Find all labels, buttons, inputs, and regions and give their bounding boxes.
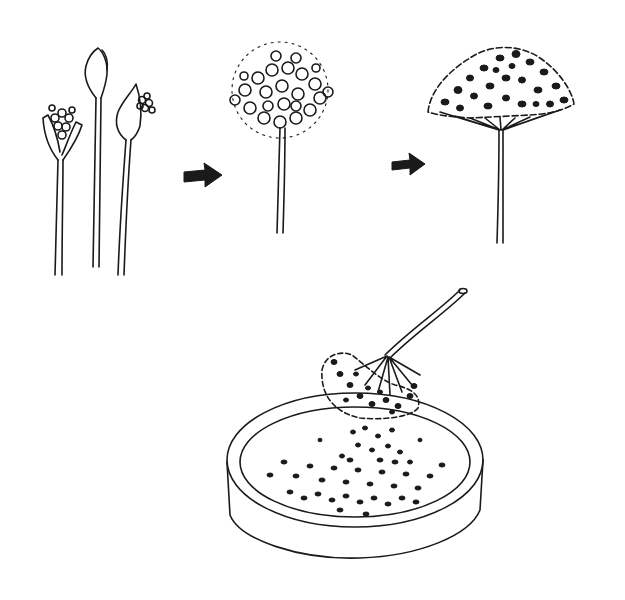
lifecycle-illustration <box>0 0 625 600</box>
arrow-right-icon <box>392 153 425 175</box>
seed-dish <box>227 393 483 558</box>
stage-seed-head <box>428 48 574 244</box>
falling-seeds <box>318 426 422 464</box>
stage-harvest <box>227 289 483 559</box>
stage-buds <box>43 48 155 275</box>
arrow-right-icon <box>184 163 222 187</box>
diagram-canvas <box>0 0 625 600</box>
stage-bloom <box>230 42 333 233</box>
